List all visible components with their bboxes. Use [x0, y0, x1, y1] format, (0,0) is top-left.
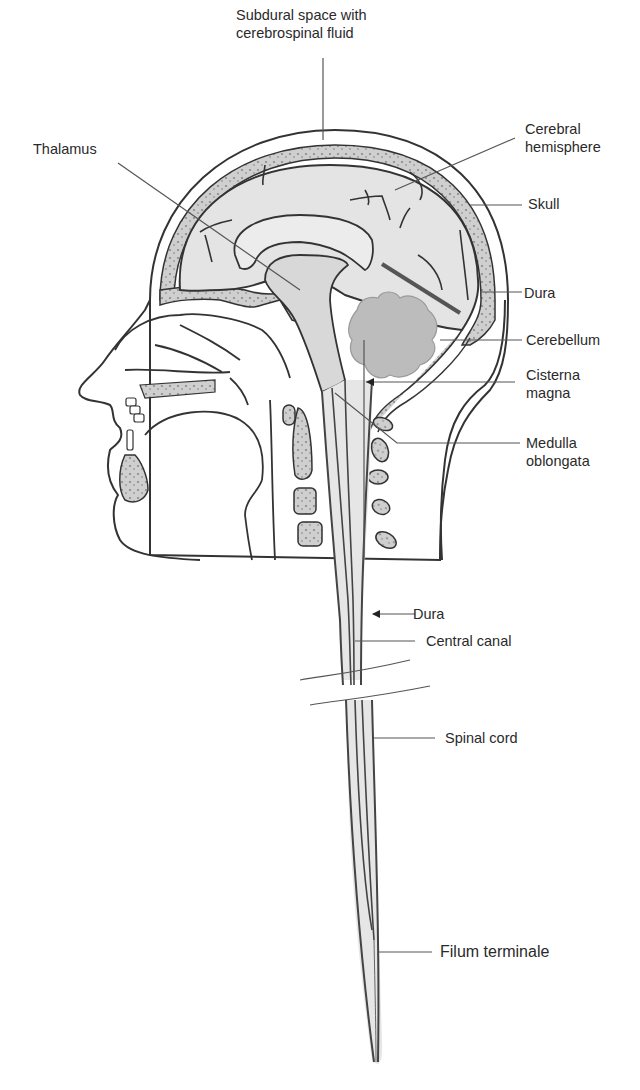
- teeth: [126, 398, 144, 450]
- label-subdural-space: Subdural space with cerebrospinal fluid: [236, 6, 367, 42]
- label-spinal-cord: Spinal cord: [445, 729, 518, 747]
- arrow-dura: [372, 610, 380, 618]
- label-skull: Skull: [528, 195, 559, 213]
- label-cisterna-magna: Cisterna magna: [526, 366, 580, 402]
- label-filum-terminale: Filum terminale: [440, 943, 549, 961]
- label-medulla-oblongata: Medulla oblongata: [526, 434, 590, 470]
- label-thalamus: Thalamus: [33, 140, 97, 158]
- break-marks: [300, 660, 430, 705]
- label-cerebral-hemisphere: Cerebral hemisphere: [525, 120, 601, 156]
- label-central-canal: Central canal: [426, 632, 511, 650]
- anatomy-diagram: [0, 0, 640, 1090]
- mandible: [120, 455, 148, 502]
- label-dura-upper: Dura: [524, 284, 555, 302]
- label-cerebellum: Cerebellum: [526, 331, 600, 349]
- label-dura-lower: Dura: [413, 605, 444, 623]
